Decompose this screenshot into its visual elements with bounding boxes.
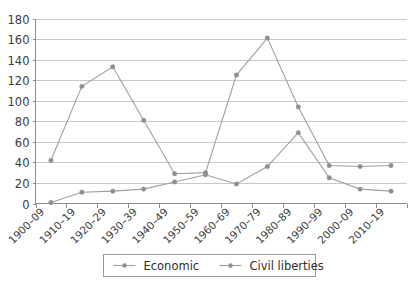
data-point <box>296 130 300 134</box>
data-point <box>358 187 362 191</box>
y-tick-label: 100 <box>8 95 30 109</box>
data-point <box>265 164 269 168</box>
legend-swatch-marker <box>228 263 232 267</box>
y-tick-label: 20 <box>15 177 30 191</box>
data-point <box>172 171 176 175</box>
data-point <box>49 200 53 204</box>
data-point <box>80 190 84 194</box>
data-point <box>389 189 393 193</box>
data-point <box>389 163 393 167</box>
y-tick-label: 40 <box>15 156 30 170</box>
legend-swatch-marker <box>122 263 126 267</box>
data-point <box>172 180 176 184</box>
chart-legend: EconomicCivil liberties <box>104 255 324 277</box>
data-point <box>327 176 331 180</box>
data-point <box>327 163 331 167</box>
chart-canvas: 020406080100120140160180 1900–091910–191… <box>0 0 418 285</box>
data-point <box>203 173 207 177</box>
y-tick-label: 80 <box>15 115 30 129</box>
data-point <box>234 73 238 77</box>
data-point <box>358 164 362 168</box>
data-point <box>142 187 146 191</box>
legend-label: Economic <box>144 259 200 273</box>
y-tick-label: 160 <box>8 33 30 47</box>
y-tick-label: 180 <box>8 13 30 27</box>
data-point <box>265 36 269 40</box>
y-tick-label: 60 <box>15 136 30 150</box>
y-tick-label: 140 <box>8 54 30 68</box>
data-point <box>234 182 238 186</box>
line-chart: 020406080100120140160180 1900–091910–191… <box>0 0 418 285</box>
legend-label: Civil liberties <box>250 259 324 273</box>
data-point <box>49 158 53 162</box>
y-tick-label: 120 <box>8 74 30 88</box>
data-point <box>111 65 115 69</box>
y-tick-label: 0 <box>22 198 29 212</box>
data-point <box>296 105 300 109</box>
data-point <box>80 84 84 88</box>
data-point <box>142 118 146 122</box>
data-point <box>111 189 115 193</box>
